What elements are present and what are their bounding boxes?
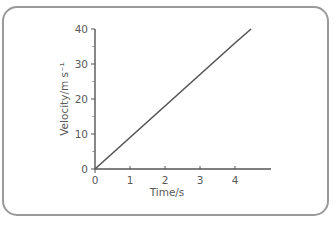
- x-tick-label: 1: [127, 174, 134, 186]
- y-tick-label: 30: [75, 58, 88, 70]
- x-tick-label: 2: [162, 174, 169, 186]
- x-tick-label: 4: [232, 174, 239, 186]
- x-tick-label: 0: [92, 174, 99, 186]
- y-tick-label: 40: [75, 23, 88, 35]
- y-axis-title: Velocity/m s⁻¹: [58, 62, 70, 136]
- velocity-line: [95, 29, 251, 169]
- velocity-time-chart: 0 10 20 30 40 0 1 2 3 4 Time/s Velocity/…: [0, 0, 336, 225]
- x-tick-label: 3: [197, 174, 204, 186]
- y-tick-label: 20: [75, 93, 88, 105]
- y-tick-label: 10: [75, 128, 88, 140]
- x-axis-title: Time/s: [149, 186, 185, 198]
- y-tick-label: 0: [81, 163, 88, 175]
